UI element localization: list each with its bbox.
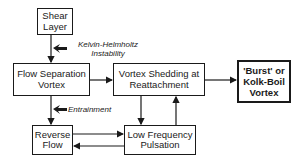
entrainment-input-arrow (53, 105, 67, 114)
node-reverse-flow: Reverse Flow (32, 125, 73, 155)
node-vortex-shedding-at-reattachment: Vortex Shedding at Reattachment (113, 63, 205, 96)
node-burst-kolk-boil-vortex: 'Burst' or Kolk-Boil Vortex (237, 60, 291, 103)
label-entrainment: Entrainment (68, 105, 111, 114)
node-low-frequency-pulsation: Low Frequency Pulsation (124, 125, 196, 155)
label-kelvin-helmholtz-instability: Kelvin-Helmholtz Instability (68, 40, 148, 58)
node-flow-separation-vortex: Flow Separation Vortex (13, 63, 90, 96)
node-shear-layer: Shear Layer (37, 8, 73, 35)
kelvin-helmholtz-input-arrow (53, 44, 67, 53)
